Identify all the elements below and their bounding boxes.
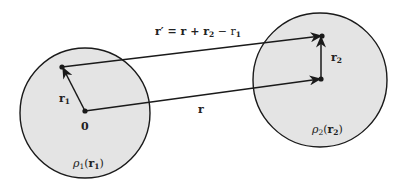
label-rho1: ρ1(r1) xyxy=(72,157,104,171)
label-r-prime: r′ = r + r2 − r1 xyxy=(155,25,241,39)
point-r xyxy=(318,76,323,81)
point-r-prime xyxy=(319,33,324,38)
label-r: r xyxy=(198,103,204,116)
vector-displacement-diagram: r′ = r + r2 − r1 r1 0 r r2 ρ1(r1) ρ2(r2) xyxy=(0,0,401,188)
label-origin: 0 xyxy=(81,120,89,133)
label-rho2: ρ2(r2) xyxy=(311,123,343,137)
origin-point xyxy=(82,108,87,113)
point-r1 xyxy=(59,64,64,69)
